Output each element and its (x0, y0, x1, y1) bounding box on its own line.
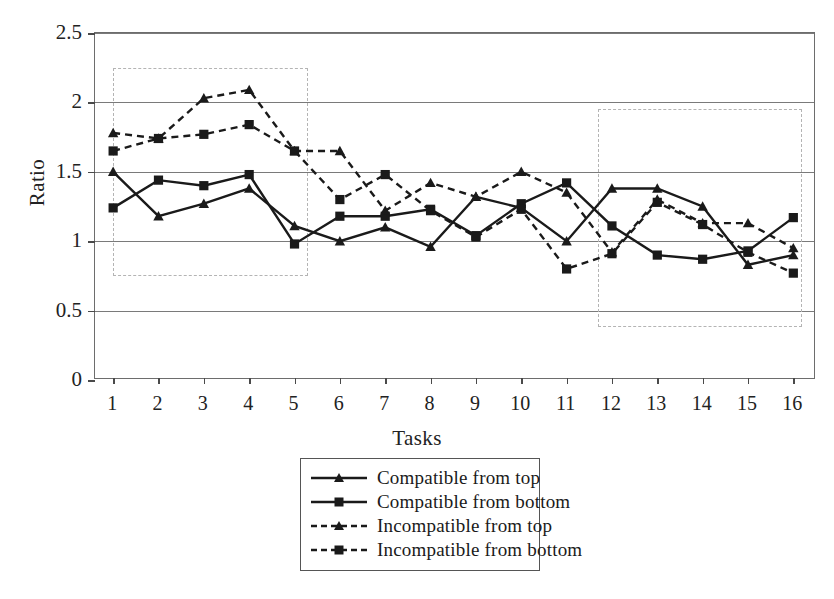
x-tick-label: 1 (107, 392, 117, 415)
data-point-marker (108, 167, 118, 176)
y-tick-label: 0 (24, 367, 82, 392)
x-tick-label: 4 (243, 392, 253, 415)
data-point-marker (698, 255, 707, 264)
x-tick-mark (340, 378, 342, 384)
data-point-marker (290, 146, 299, 155)
series-compatible-from-top (108, 167, 799, 269)
x-tick-mark (158, 378, 160, 384)
data-point-marker (789, 213, 798, 222)
data-point-marker (381, 170, 390, 179)
data-point-marker (561, 187, 571, 196)
y-tick-label: 2.5 (24, 20, 82, 45)
legend-item-incompatible-from-bottom: Incompatible from bottom (309, 538, 529, 562)
data-point-marker (562, 264, 571, 273)
x-tick-label: 11 (556, 392, 575, 415)
series-line (113, 90, 793, 252)
data-point-marker (199, 181, 208, 190)
y-tick-label: 2 (24, 89, 82, 114)
legend-label: Compatible from top (377, 467, 540, 489)
x-tick-mark (295, 378, 297, 384)
data-point-marker (426, 206, 435, 215)
x-tick-label: 13 (646, 392, 666, 415)
x-tick-mark (748, 378, 750, 384)
data-point-marker (653, 250, 662, 259)
x-tick-mark (249, 378, 251, 384)
legend-swatch-solid-square (309, 494, 369, 510)
plot-area (94, 32, 815, 379)
legend-label: Incompatible from top (377, 515, 552, 537)
series-compatible-from-bottom (109, 170, 798, 264)
legend-item-compatible-from-top: Compatible from top (309, 466, 529, 490)
data-point-marker (698, 220, 707, 229)
legend-item-compatible-from-bottom: Compatible from bottom (309, 490, 529, 514)
data-point-marker (245, 120, 254, 129)
y-tick-mark (88, 380, 95, 382)
data-point-marker (517, 205, 526, 214)
x-tick-label: 9 (470, 392, 480, 415)
y-tick-label: 1 (24, 228, 82, 253)
x-tick-label: 14 (692, 392, 712, 415)
data-point-marker (199, 130, 208, 139)
series-incompatible-from-top (108, 85, 799, 257)
legend-label: Incompatible from bottom (377, 539, 582, 561)
data-point-marker (290, 239, 299, 248)
series-lines (95, 33, 816, 380)
chart-figure: Ratio 00.511.522.5 123456789101112131415… (0, 0, 834, 599)
x-tick-label: 10 (510, 392, 530, 415)
data-point-marker (789, 269, 798, 278)
data-point-marker (471, 232, 480, 241)
x-tick-mark (567, 378, 569, 384)
data-point-marker (154, 134, 163, 143)
data-point-marker (244, 183, 254, 192)
legend-swatch-solid-triangle (309, 470, 369, 486)
x-tick-label: 3 (198, 392, 208, 415)
data-point-marker (743, 218, 753, 227)
x-tick-label: 2 (152, 392, 162, 415)
x-axis-label: Tasks (0, 426, 834, 451)
series-incompatible-from-bottom (109, 120, 798, 278)
x-tick-label: 16 (782, 392, 802, 415)
y-tick-mark (88, 241, 95, 243)
y-tick-mark (88, 102, 95, 104)
x-tick-label: 7 (379, 392, 389, 415)
data-point-marker (607, 221, 616, 230)
x-tick-mark (521, 378, 523, 384)
x-tick-mark (612, 378, 614, 384)
y-axis-tick-labels: 00.511.522.5 (24, 0, 82, 599)
data-point-marker (245, 170, 254, 179)
data-point-marker (653, 198, 662, 207)
legend-label: Compatible from bottom (377, 491, 570, 513)
data-point-marker (425, 178, 435, 187)
y-tick-label: 1.5 (24, 158, 82, 183)
legend-item-incompatible-from-top: Incompatible from top (309, 514, 529, 538)
data-point-marker (109, 203, 118, 212)
data-point-marker (516, 167, 526, 176)
legend-swatch-dashed-square (309, 542, 369, 558)
x-tick-label: 6 (334, 392, 344, 415)
x-tick-mark (385, 378, 387, 384)
y-tick-mark (88, 172, 95, 174)
x-tick-label: 8 (425, 392, 435, 415)
data-point-marker (380, 205, 390, 214)
x-tick-label: 15 (737, 392, 757, 415)
data-point-marker (743, 248, 752, 257)
data-point-marker (109, 146, 118, 155)
x-tick-mark (476, 378, 478, 384)
data-point-marker (380, 222, 390, 231)
data-point-marker (788, 243, 798, 252)
data-point-marker (335, 195, 344, 204)
x-tick-mark (431, 378, 433, 384)
legend-swatch-dashed-triangle (309, 518, 369, 534)
data-point-marker (562, 178, 571, 187)
data-point-marker (154, 176, 163, 185)
data-point-marker (335, 212, 344, 221)
data-point-marker (607, 249, 616, 258)
x-tick-mark (793, 378, 795, 384)
x-tick-mark (703, 378, 705, 384)
x-tick-label: 12 (601, 392, 621, 415)
y-tick-label: 0.5 (24, 297, 82, 322)
y-tick-mark (88, 33, 95, 35)
x-tick-mark (113, 378, 115, 384)
x-tick-mark (657, 378, 659, 384)
x-tick-label: 5 (289, 392, 299, 415)
